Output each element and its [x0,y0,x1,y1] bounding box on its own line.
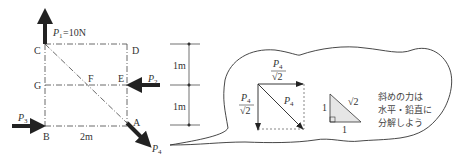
p3-label: P 3 [17,112,28,125]
note-line-3: 分解しよう [378,117,423,128]
point-b-label: B [43,131,50,142]
height-dimension [170,43,200,126]
svg-text:√2: √2 [240,105,251,116]
p4-label: P 4 [151,143,162,156]
point-a-label: A [133,117,141,128]
svg-text:2: 2 [154,78,158,86]
diagram-canvas: C D G F E B A P 1 =10N P 2 P 3 P 4 2m 1m… [0,0,462,161]
svg-text:=10N: =10N [63,27,86,38]
svg-text:4: 4 [290,100,294,108]
point-f-label: F [88,73,94,84]
width-dimension-label: 2m [80,131,93,142]
line-ca-diagonal [45,44,127,123]
triangle-hypotenuse: √2 [348,96,359,107]
note-line-2: 水平・鉛直に [378,104,432,115]
svg-text:√2: √2 [272,71,283,82]
point-e-label: E [118,73,124,84]
lower-height-label: 1m [173,101,186,112]
p1-label: P 1 =10N [52,27,86,40]
note-line-1: 斜めの力は [378,91,423,102]
frame-lines [45,44,127,126]
svg-text:4: 4 [158,148,162,156]
svg-text:4: 4 [247,97,251,105]
svg-text:3: 3 [24,117,28,125]
point-g-label: G [34,80,41,91]
triangle-side-horizontal: 1 [342,124,347,135]
point-d-label: D [132,45,139,56]
triangle-side-vertical: 1 [322,102,327,113]
svg-text:4: 4 [279,63,283,71]
upper-height-label: 1m [173,60,186,71]
point-c-label: C [34,45,41,56]
